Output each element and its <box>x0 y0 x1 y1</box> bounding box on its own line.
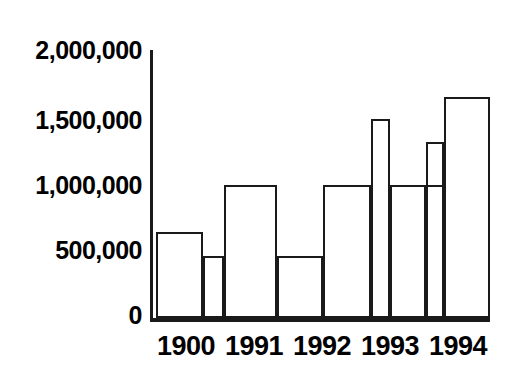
x-tick-label-1992: 1992 <box>286 330 358 362</box>
bar <box>323 185 371 318</box>
bar <box>426 185 445 318</box>
bar <box>224 185 276 318</box>
x-tick-label-1991: 1991 <box>218 330 290 362</box>
y-axis-labels: 2,000,000 1,500,000 1,000,000 500,000 0 <box>0 0 142 382</box>
bar-chart: 2,000,000 1,500,000 1,000,000 500,000 0 … <box>0 0 508 382</box>
x-tick-label-1900: 1900 <box>150 330 222 362</box>
y-tick-label-500000: 500,000 <box>55 238 142 263</box>
bar <box>156 232 203 318</box>
bar <box>444 97 490 318</box>
x-axis-line <box>150 318 490 322</box>
x-tick-label-1993: 1993 <box>354 330 426 362</box>
bar <box>203 256 224 319</box>
y-tick-label-1500000: 1,500,000 <box>35 108 142 133</box>
y-axis-line <box>150 50 153 320</box>
x-axis-labels: 1900 1991 1992 1993 1994 <box>150 330 495 375</box>
x-tick-label-1994: 1994 <box>422 330 494 362</box>
y-tick-label-1000000: 1,000,000 <box>35 173 142 198</box>
bar <box>371 119 390 319</box>
plot-area <box>150 52 490 318</box>
y-tick-label-2000000: 2,000,000 <box>35 38 142 63</box>
y-tick-label-0: 0 <box>129 303 142 328</box>
bar <box>277 256 323 319</box>
bar <box>390 185 426 318</box>
